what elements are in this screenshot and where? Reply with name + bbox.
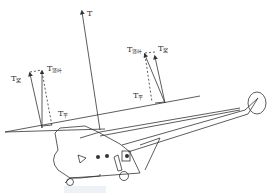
cockpit-window (78, 155, 86, 163)
label-left-blade-thrust: T桨 (11, 75, 21, 83)
rotor-disc (5, 96, 200, 132)
label-left-vertical: T竖叶 (47, 65, 62, 73)
left-blade-thrust-vector (30, 74, 42, 128)
bottom-strip (64, 186, 106, 193)
right-blade-thrust-vector (155, 57, 165, 103)
right-vertical-vector (145, 55, 165, 103)
helicopter-diagram: T T桨 T竖叶 T平 T竖叶 T桨 T平 (0, 0, 272, 193)
label-right-vertical: T竖叶 (127, 46, 142, 54)
tail-boom (122, 110, 248, 152)
label-total-thrust: T (87, 10, 92, 18)
label-left-horizontal: T平 (58, 110, 68, 118)
total-thrust-vector (82, 12, 100, 130)
fuselage (54, 126, 141, 178)
label-right-blade-thrust: T桨 (158, 45, 168, 53)
tail-rotor (248, 92, 266, 114)
portholes (96, 154, 129, 159)
label-right-horizontal: T平 (133, 92, 143, 100)
